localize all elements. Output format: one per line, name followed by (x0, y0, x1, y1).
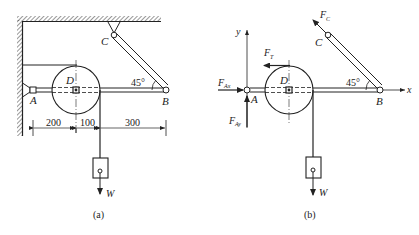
label-c: C (101, 35, 109, 47)
pin-c (325, 32, 331, 38)
panel-a: A B C D 45° W 200 100 300 (a) (17, 16, 169, 221)
caption-b: (b) (304, 209, 316, 221)
caption-a: (a) (93, 209, 104, 221)
force-label-fax: F Ax (217, 77, 231, 89)
weight-label: W (319, 187, 329, 198)
x-axis-label: x (406, 84, 412, 95)
dim-100: 100 (80, 117, 95, 128)
pin-b (377, 87, 383, 93)
panel-b: y x A B C D 45° W F Ax F Ay F T F C (b) (217, 9, 412, 221)
ceiling-support (17, 16, 161, 22)
pin-b (163, 87, 169, 93)
y-axis-label: y (235, 26, 241, 37)
svg-text:Ay: Ay (234, 121, 241, 127)
svg-text:T: T (270, 54, 274, 60)
dim-200: 200 (46, 117, 61, 128)
label-d: D (65, 74, 74, 86)
angle-label: 45° (346, 77, 360, 88)
svg-text:Ax: Ax (223, 83, 231, 89)
wall-support (17, 20, 23, 136)
label-c: C (315, 36, 323, 48)
label-b: B (376, 95, 383, 107)
label-a: A (29, 94, 37, 106)
pin-a (244, 87, 250, 93)
force-label-ft: F T (263, 47, 274, 60)
label-d: D (279, 74, 288, 86)
weight-label: W (106, 188, 116, 199)
force-label-fay: F Ay (228, 115, 241, 127)
statics-figure: A B C D 45° W 200 100 300 (a) (0, 0, 419, 235)
dim-300: 300 (125, 117, 140, 128)
force-label-fc: F C (319, 9, 331, 22)
force-fc-arrow (313, 20, 326, 33)
pulley-d (265, 60, 313, 125)
label-a: A (250, 93, 258, 105)
angle-label: 45° (131, 77, 145, 88)
label-b: B (162, 95, 169, 107)
svg-text:C: C (326, 16, 331, 22)
